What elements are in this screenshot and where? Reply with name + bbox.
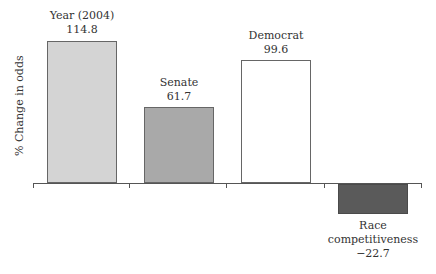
- bar-name: Democrat: [226, 29, 326, 43]
- bar-senate: [144, 107, 214, 183]
- x-axis-tick: [226, 183, 227, 188]
- bar-value: 61.7: [129, 90, 229, 104]
- y-axis-label: % Change in odds: [13, 55, 26, 156]
- bar-name: Senate: [129, 76, 229, 90]
- bar-democrat: [241, 60, 311, 183]
- bar-value: 99.6: [226, 43, 326, 57]
- bar-name-line1: Race: [318, 219, 428, 233]
- x-axis-tick: [421, 183, 422, 188]
- bar-race-competitiveness-label: Race competitiveness −22.7: [318, 219, 428, 261]
- bar-value: −22.7: [318, 247, 428, 261]
- bar-name: Year (2004): [32, 9, 132, 23]
- bar-name-line2: competitiveness: [318, 233, 428, 247]
- bar-chart: % Change in odds Year (2004) 114.8 Senat…: [0, 0, 436, 274]
- bar-race-competitiveness: [338, 184, 408, 214]
- x-axis-tick: [33, 183, 34, 188]
- bar-democrat-label: Democrat 99.6: [226, 29, 326, 57]
- bar-value: 114.8: [32, 23, 132, 37]
- x-axis-baseline: [33, 183, 422, 184]
- bar-year-2004: [47, 41, 117, 183]
- x-axis-tick: [324, 183, 325, 188]
- bar-senate-label: Senate 61.7: [129, 76, 229, 104]
- bar-year-2004-label: Year (2004) 114.8: [32, 9, 132, 37]
- x-axis-tick: [129, 183, 130, 188]
